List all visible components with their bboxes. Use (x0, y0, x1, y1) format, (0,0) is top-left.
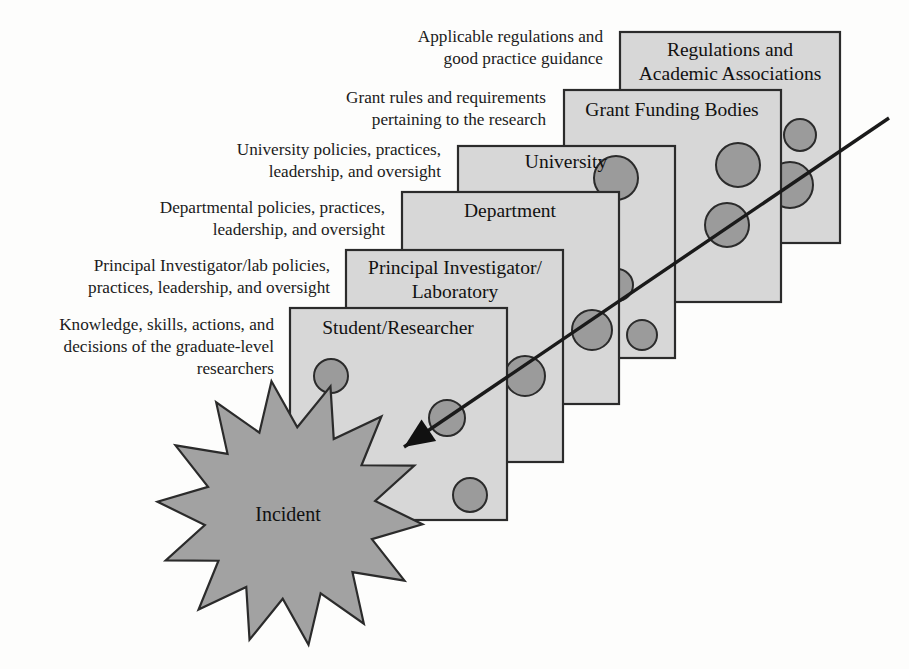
panel-label: Department (464, 200, 557, 221)
callout-line: decisions of the graduate-level (64, 337, 275, 356)
callout-line: practices, leadership, and oversight (88, 278, 330, 297)
panel-hole (627, 320, 657, 350)
callout-pi: Principal Investigator/lab policies,prac… (88, 256, 330, 297)
swiss-cheese-model-svg: Regulations andAcademic Associations Gra… (0, 0, 909, 669)
callout-line: Departmental policies, practices, (160, 198, 385, 217)
callout-line: leadership, and oversight (213, 220, 386, 239)
diagram-canvas: Regulations andAcademic Associations Gra… (0, 0, 909, 669)
callout-regulations: Applicable regulations andgood practice … (418, 27, 604, 68)
panel-label: Student/Researcher (322, 317, 474, 338)
panel-label-line: University (525, 151, 608, 172)
callout-line: Knowledge, skills, actions, and (59, 315, 274, 334)
panel-hole (784, 119, 816, 151)
panel-label-line: Department (464, 200, 557, 221)
panel-label-line: Regulations and (667, 39, 793, 60)
panel-label: Grant Funding Bodies (585, 99, 758, 120)
callout-line: Grant rules and requirements (346, 88, 546, 107)
panel-label-line: Student/Researcher (322, 317, 474, 338)
callout-university: University policies, practices,leadershi… (237, 140, 441, 181)
panel-hole (705, 203, 749, 247)
callout-department: Departmental policies, practices,leaders… (160, 198, 385, 239)
callout-line: researchers (197, 359, 275, 378)
callout-grant: Grant rules and requirementspertaining t… (346, 88, 546, 129)
callout-line: Applicable regulations and (418, 27, 604, 46)
callout-line: pertaining to the research (372, 110, 547, 129)
panel-label-line: Academic Associations (639, 63, 822, 84)
callout-student: Knowledge, skills, actions, anddecisions… (59, 315, 274, 378)
burst-label: Incident (255, 503, 321, 525)
callout-line: leadership, and oversight (269, 162, 442, 181)
panel-hole (453, 478, 487, 512)
panel-label: University (525, 151, 608, 172)
callout-line: University policies, practices, (237, 140, 441, 159)
panel-label-line: Grant Funding Bodies (585, 99, 758, 120)
callout-line: Principal Investigator/lab policies, (94, 256, 330, 275)
panel-label-line: Laboratory (412, 281, 499, 302)
panel-hole (716, 143, 760, 187)
callout-line: good practice guidance (444, 49, 604, 68)
panel-label-line: Principal Investigator/ (368, 257, 542, 278)
